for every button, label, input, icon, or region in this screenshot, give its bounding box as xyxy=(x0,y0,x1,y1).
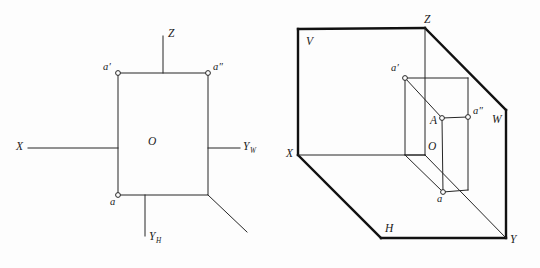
A-to-a-double-prime xyxy=(442,117,468,118)
a-prime-to-A-top xyxy=(405,78,442,118)
left-label-yh: YH xyxy=(149,231,161,243)
left-45-degree-line xyxy=(208,195,247,232)
right-label-w-plane: W xyxy=(492,114,502,126)
right-label-z: Z xyxy=(424,14,431,26)
left-label-z: Z xyxy=(168,28,175,40)
right-label-origin: O xyxy=(428,141,437,153)
left-label-a-double-prime: a″ xyxy=(213,62,223,73)
left-label-yw: YW xyxy=(243,141,256,153)
right-label-a-prime: a′ xyxy=(391,63,399,74)
left-label-yh-letter: Y xyxy=(149,230,156,242)
left-marker-a-double-prime xyxy=(206,71,211,76)
box-top-right-edge xyxy=(425,28,506,110)
right-marker-point-A xyxy=(440,116,445,121)
right-label-h-plane: H xyxy=(385,223,394,235)
right-label-a: a xyxy=(437,194,442,205)
projection-figure: Z X YW YH O a′ a″ a V Z W X H Y O A a′ a… xyxy=(0,0,540,268)
left-marker-a-prime xyxy=(116,71,121,76)
point-a-construction-box xyxy=(405,78,468,192)
left-label-origin: O xyxy=(148,136,157,148)
left-label-a-prime: a′ xyxy=(103,62,111,73)
left-projection-rectangle xyxy=(118,73,208,195)
a-to-lower-right-edge xyxy=(443,190,468,192)
right-label-a-double-prime: a″ xyxy=(473,106,483,117)
right-label-y: Y xyxy=(510,234,517,246)
left-diagram-markers xyxy=(116,71,211,198)
right-marker-a-double-prime xyxy=(466,115,471,120)
right-diagram-markers xyxy=(403,76,471,195)
left-marker-a xyxy=(116,193,121,198)
right-label-point-A: A xyxy=(430,115,437,127)
right-marker-a-prime xyxy=(403,76,408,81)
left-label-x: X xyxy=(16,141,23,153)
h-plane-left-edge xyxy=(298,155,381,238)
left-label-yh-sub: H xyxy=(156,237,161,245)
right-diagram-interior-lines xyxy=(298,28,506,238)
origin-foot-to-a-diagonal xyxy=(405,155,443,192)
left-label-a: a xyxy=(110,197,115,208)
v-plane-top-edge xyxy=(298,28,425,29)
A-to-a-vertical xyxy=(442,118,443,192)
left-label-yw-letter: Y xyxy=(243,140,250,152)
right-label-v-plane: V xyxy=(306,36,313,48)
right-label-x: X xyxy=(286,148,293,160)
figure-canvas xyxy=(0,0,540,268)
left-label-yw-sub: W xyxy=(250,147,256,155)
